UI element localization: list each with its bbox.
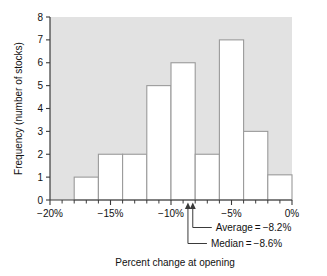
x-axis-tick-label: −5%: [221, 208, 241, 219]
y-axis-tick-label: 4: [37, 103, 43, 114]
histogram-bar: [123, 154, 147, 200]
x-axis-tick-label: −15%: [98, 208, 124, 219]
histogram-bar: [195, 154, 219, 200]
x-axis-ticks: [50, 200, 292, 205]
histogram-bar: [219, 40, 243, 200]
y-axis-tick-label: 0: [37, 195, 43, 206]
x-axis-tick-label: −20%: [37, 208, 63, 219]
histogram-bar: [74, 177, 98, 200]
histogram-bar: [268, 175, 292, 200]
histogram-bar: [98, 154, 122, 200]
y-axis-tick-label: 7: [37, 34, 43, 45]
histogram-svg: 012345678 −20%−15%−10%−5%0% Average = −8…: [0, 0, 327, 276]
annotation-label-median: Median = −8.6%: [211, 238, 282, 249]
histogram-bar: [171, 63, 195, 200]
annotation-marker-median: [185, 203, 191, 210]
x-axis-title: Percent change at opening: [115, 257, 235, 268]
histogram-figure: 012345678 −20%−15%−10%−5%0% Average = −8…: [0, 0, 327, 276]
y-axis-tick-label: 2: [37, 149, 43, 160]
x-axis-tick-label: 0%: [285, 208, 300, 219]
y-axis-tick-label: 6: [37, 57, 43, 68]
annotation-label-average: Average = −8.2%: [216, 222, 292, 233]
y-axis-tick-label: 1: [37, 172, 43, 183]
y-axis-title: Frequency (number of stocks): [13, 42, 24, 175]
y-axis-tick-label: 8: [37, 12, 43, 23]
y-axis-tick-label: 3: [37, 126, 43, 137]
x-axis-tick-labels: −20%−15%−10%−5%0%: [37, 208, 299, 219]
histogram-bar: [147, 86, 171, 200]
y-axis-tick-label: 5: [37, 80, 43, 91]
annotation-leader-median: [188, 209, 207, 244]
histogram-bar: [244, 131, 268, 200]
y-axis-tick-labels: 012345678: [37, 12, 43, 206]
annotation-leader-average: [193, 209, 212, 228]
x-axis-tick-label: −10%: [158, 208, 184, 219]
